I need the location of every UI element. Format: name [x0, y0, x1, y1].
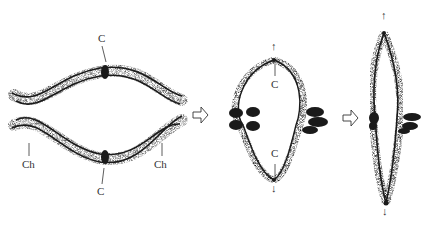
stage-3-rod-bivalent	[369, 31, 421, 206]
label-arrow-down-3: ↓	[382, 206, 388, 217]
centromere-dots	[101, 65, 109, 164]
label-centromere-top-2: C	[271, 79, 278, 90]
label-centromere-bottom-2: C	[271, 148, 278, 159]
stage-2-ring-bivalent	[229, 58, 328, 182]
label-arrow-up-3: ↑	[381, 10, 387, 21]
transition-arrow-1	[193, 107, 208, 123]
transition-arrow-2	[343, 110, 358, 126]
label-chiasma-right: Ch	[154, 159, 167, 170]
label-arrow-up-2: ↑	[271, 41, 277, 52]
label-arrow-down-2: ↓	[271, 183, 277, 194]
chromosome-diagram: C C Ch Ch ↑ C C ↓ ↑ ↓	[0, 0, 448, 226]
label-chiasma-left: Ch	[22, 159, 35, 170]
label-centromere-top-1: C	[98, 33, 105, 44]
label-centromere-bottom-1: C	[97, 186, 104, 197]
